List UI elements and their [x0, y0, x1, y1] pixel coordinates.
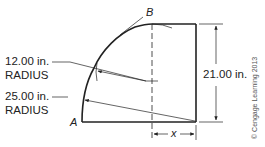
copyright-notice: © Cengage Learning 2013 [251, 57, 258, 139]
height-dimension-label: 21.00 in. [203, 69, 247, 81]
radius-arc-mark [96, 63, 97, 81]
part-outline [82, 24, 196, 122]
point-b-label: B [146, 7, 153, 18]
radius-12-arrow [98, 71, 146, 81]
radius-25-value: 25.00 in. [5, 91, 49, 103]
width-x-label: x [171, 128, 177, 139]
radius-25-word: RADIUS [5, 105, 48, 117]
radius-12-word: RADIUS [5, 70, 48, 82]
compound-curve [82, 24, 152, 122]
radius-12-leader-line [70, 62, 146, 81]
radius-12-value: 12.00 in. [5, 56, 49, 68]
point-a-label: A [70, 117, 77, 128]
radius-25-arrow [85, 100, 195, 121]
technical-drawing: B A 12.00 in. RADIUS 25.00 in. RADIUS 21… [0, 0, 265, 147]
